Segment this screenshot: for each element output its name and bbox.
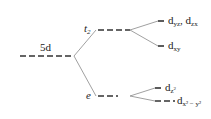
label-dx2y2: dx² − y²: [177, 95, 201, 108]
label-5d: 5d: [40, 42, 51, 53]
dz2-sub: z2: [171, 87, 177, 95]
label-dyz-dzx: dyz, dzx: [168, 15, 198, 28]
label-dz2: dz2: [165, 82, 176, 95]
label-e: e: [86, 90, 91, 101]
label-dxy: dxy: [168, 40, 181, 53]
label-t2: t2: [84, 23, 91, 36]
